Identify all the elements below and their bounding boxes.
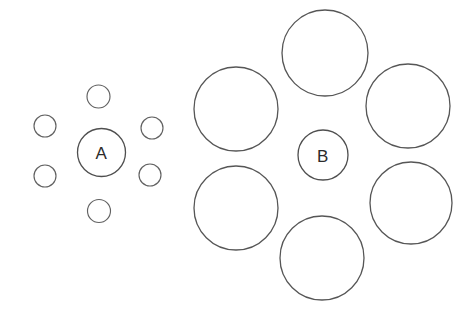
- inducer-circle-large-upper-left: [194, 67, 278, 151]
- illusion-canvas: A B: [0, 0, 473, 320]
- right-cluster-group: B: [194, 10, 452, 300]
- inducer-circle-large-lower-right: [370, 162, 452, 244]
- inducer-circle-small-lower-left: [34, 165, 56, 187]
- inducer-circle-small-bottom: [88, 200, 111, 223]
- inducer-circle-small-upper-left: [34, 115, 56, 137]
- inducer-circle-small-upper-right: [141, 117, 163, 139]
- ebbinghaus-illusion-figure: A B: [0, 0, 473, 320]
- inducer-circle-large-top: [282, 10, 368, 96]
- inducer-circle-large-bottom: [280, 216, 364, 300]
- target-label-a: A: [96, 144, 108, 163]
- inducer-circle-large-lower-left: [194, 166, 278, 250]
- target-label-b: B: [317, 147, 329, 166]
- left-cluster-group: A: [34, 85, 163, 223]
- inducer-circle-large-upper-right: [366, 64, 450, 148]
- inducer-circle-small-top: [87, 85, 110, 108]
- inducer-circle-small-lower-right: [139, 164, 161, 186]
